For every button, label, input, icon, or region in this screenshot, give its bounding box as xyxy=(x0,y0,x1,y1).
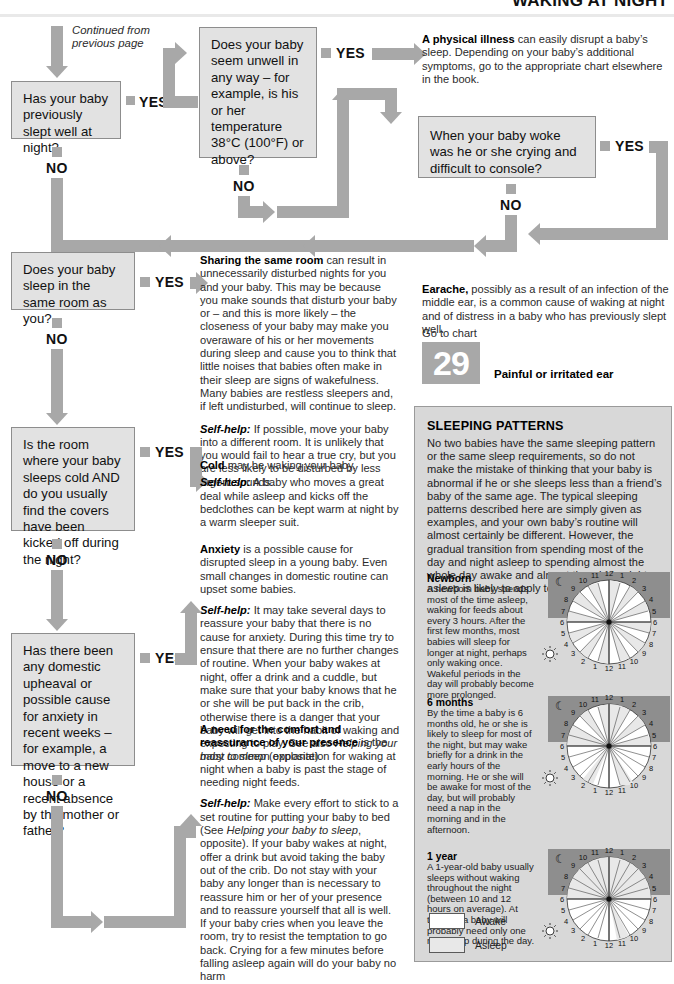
svg-text:10: 10 xyxy=(630,781,638,790)
advice-comfort-selfhelp-italic: Helping your baby to sleep xyxy=(227,824,358,836)
arrow-bottom-stub xyxy=(174,826,196,838)
svg-text:4: 4 xyxy=(649,595,653,604)
svg-text:10: 10 xyxy=(579,853,587,862)
no-label-q4: NO xyxy=(46,331,68,347)
svg-text:5: 5 xyxy=(652,607,656,616)
question-box-room-cold[interactable]: Is the room where your baby sleeps cold … xyxy=(11,427,135,531)
no-bullet-q4 xyxy=(52,318,62,328)
advice-anxiety-selfhelp-label: Self-help: xyxy=(200,604,251,616)
advice-comfort: A need for the comfort and reassurance o… xyxy=(200,723,400,984)
no-label-q1: NO xyxy=(46,160,68,176)
svg-text:11: 11 xyxy=(618,939,626,948)
section-body-1-year: A 1-year-old baby usually sleeps without… xyxy=(427,862,535,947)
sun-icon xyxy=(542,770,558,786)
svg-text:2: 2 xyxy=(581,657,585,666)
clock-svg-6-months: 1212 345 678 91011 1212 345 678 91011 ☾ xyxy=(533,694,673,797)
advice-cold-lead: Cold xyxy=(200,459,225,471)
question-box-same-room[interactable]: Does your baby sleep in the same room as… xyxy=(11,252,135,310)
svg-text:4: 4 xyxy=(564,917,568,926)
advice-earache-lead: Earache, xyxy=(422,283,468,295)
svg-text:3: 3 xyxy=(571,649,575,658)
svg-text:9: 9 xyxy=(571,584,575,593)
yes-label-q3: YES xyxy=(615,138,644,154)
header-divider xyxy=(0,14,674,17)
arrow-q1-yes-h xyxy=(175,96,198,108)
arrow-q3-yes-v xyxy=(656,141,668,233)
arrow-q3-yes-head xyxy=(528,223,540,245)
arrow-q1-no-shaft xyxy=(51,178,63,240)
arrow-q6-yes-head xyxy=(180,601,202,613)
legend-swatch-asleep xyxy=(429,937,465,953)
yes-label-q5: YES xyxy=(155,444,184,460)
sun-icon xyxy=(542,646,558,662)
svg-text:6: 6 xyxy=(560,742,564,751)
svg-text:12: 12 xyxy=(605,694,613,702)
arrow-q1-yes-v xyxy=(163,48,175,108)
svg-text:2: 2 xyxy=(632,700,636,709)
svg-text:11: 11 xyxy=(618,786,626,795)
no-bullet-q1 xyxy=(52,147,62,157)
svg-text:3: 3 xyxy=(642,584,646,593)
merge-bar-row1-head-a xyxy=(159,235,171,257)
arrow-merge-row1 xyxy=(51,240,171,252)
svg-text:5: 5 xyxy=(561,906,565,915)
question-box-seem-unwell[interactable]: Does your baby seem unwell in any way – … xyxy=(199,27,317,158)
chart-number-title[interactable]: Painful or irritated ear xyxy=(494,368,614,380)
svg-text:11: 11 xyxy=(591,695,599,704)
arrow-continued-shaft xyxy=(51,26,63,66)
yes-bullet-q5 xyxy=(140,447,150,457)
svg-text:4: 4 xyxy=(564,640,568,649)
advice-physical-illness: A physical illness can easily disrupt a … xyxy=(422,33,670,86)
question-box-slept-well[interactable]: Has your baby previously slept well at n… xyxy=(11,81,121,139)
merge-bar-row1 xyxy=(171,240,474,252)
arrow-q6-yes-v xyxy=(185,613,197,665)
svg-text:11: 11 xyxy=(591,571,599,580)
legend-swatch-awake xyxy=(429,913,465,929)
advice-sharing-room-selfhelp-label: Self-help: xyxy=(200,423,251,435)
section-body-newborn: A newborn baby spends most of the time a… xyxy=(427,584,535,701)
svg-text:3: 3 xyxy=(642,861,646,870)
svg-text:2: 2 xyxy=(581,934,585,943)
svg-text:12: 12 xyxy=(605,570,613,578)
svg-text:9: 9 xyxy=(642,773,646,782)
yes-bullet-q2 xyxy=(321,48,331,58)
yes-bullet-q4 xyxy=(140,277,150,287)
sleeping-patterns-title: SLEEPING PATTERNS xyxy=(427,419,564,433)
section-body-6-months: By the time a baby is 6 months old, he o… xyxy=(427,708,535,835)
sleeping-patterns-panel: SLEEPING PATTERNS No two babies have the… xyxy=(414,406,672,962)
chart-number-badge[interactable]: 29 xyxy=(422,342,480,384)
arrow-q6-no-head xyxy=(91,911,103,933)
svg-text:6: 6 xyxy=(653,618,657,627)
svg-text:9: 9 xyxy=(571,861,575,870)
arrow-bottom-head xyxy=(180,814,202,826)
svg-text:2: 2 xyxy=(581,781,585,790)
svg-text:2: 2 xyxy=(632,576,636,585)
arrow-q5-no-head xyxy=(46,619,68,631)
arrow-q3-yes-h2 xyxy=(540,228,668,240)
svg-text:1: 1 xyxy=(593,786,597,795)
arrow-q3-no-v xyxy=(505,215,517,240)
advice-cold: Cold may be waking your baby. Self-help:… xyxy=(200,459,400,529)
svg-text:9: 9 xyxy=(571,708,575,717)
svg-text:11: 11 xyxy=(591,848,599,857)
svg-text:6: 6 xyxy=(560,618,564,627)
svg-text:7: 7 xyxy=(561,884,565,893)
question-box-domestic-upheaval[interactable]: Has there been any domestic upheaval or … xyxy=(11,633,135,766)
svg-text:4: 4 xyxy=(564,764,568,773)
clock-diagram-6-months: 1212 345 678 91011 1212 345 678 91011 ☾ xyxy=(533,694,673,797)
clock-svg-newborn: 1212 345 678 91011 1212 345 678 91011 ☾ xyxy=(533,570,673,673)
svg-text:12: 12 xyxy=(605,847,613,855)
no-label-q6: NO xyxy=(46,788,68,804)
arrow-q3-no-h xyxy=(486,240,517,252)
svg-text:6: 6 xyxy=(653,742,657,751)
question-box-crying-difficult-console[interactable]: When your baby woke was he or she crying… xyxy=(418,116,596,178)
svg-text:7: 7 xyxy=(652,753,656,762)
svg-text:9: 9 xyxy=(642,649,646,658)
svg-text:3: 3 xyxy=(642,708,646,717)
advice-sharing-room: Sharing the same room can result in unne… xyxy=(200,254,400,489)
svg-text:1: 1 xyxy=(593,662,597,671)
arrow-bottom-up xyxy=(174,826,186,928)
arrow-q1-yes-head xyxy=(175,42,187,64)
svg-text:7: 7 xyxy=(652,906,656,915)
